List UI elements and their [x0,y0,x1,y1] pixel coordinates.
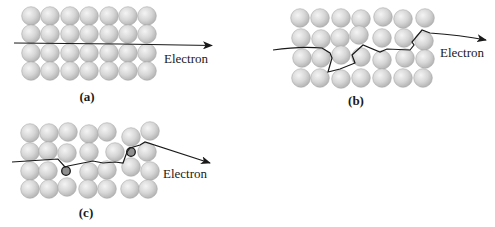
electron-label-c: Electron [163,166,208,181]
panel-b: Electron (b) [273,8,486,108]
panel-a: Electron (a) [14,7,212,104]
impurity-atom [127,148,136,157]
impurity-atom [62,167,71,176]
electron-label-a: Electron [164,51,209,66]
panel-c: Electron (c) [12,122,210,220]
panel-label-a: (a) [79,89,94,104]
electron-scattering-diagram: Electron (a) Electron (b) [0,0,495,227]
electron-label-b: Electron [440,45,485,60]
panel-label-b: (b) [348,93,364,108]
panel-label-c: (c) [79,205,93,220]
